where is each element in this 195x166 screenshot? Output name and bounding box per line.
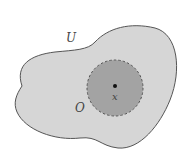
point-x-label: x xyxy=(112,91,118,102)
set-u-label: U xyxy=(66,31,77,45)
point-x xyxy=(113,84,117,88)
neighborhood-o-label: O xyxy=(75,101,85,115)
open-set-diagram: x U O xyxy=(0,0,195,166)
